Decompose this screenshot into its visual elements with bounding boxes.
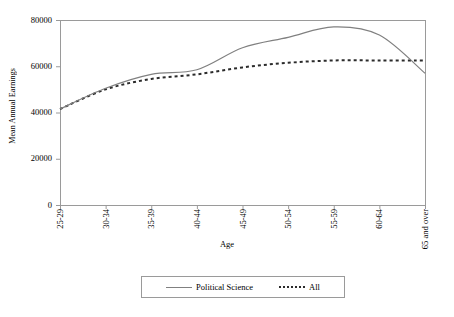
x-tick-label: 45-49 (239, 209, 248, 229)
x-tick-label: 50-54 (284, 209, 293, 229)
legend-label-all: All (309, 282, 320, 292)
y-axis-ticks (56, 21, 60, 206)
y-tick-label: 20000 (12, 154, 52, 163)
x-tick-label: 40-44 (193, 209, 202, 229)
x-tick-label: 35-39 (147, 209, 156, 229)
y-tick-label: 0 (12, 201, 52, 210)
plot-frame (61, 21, 426, 206)
legend-entry-political-science: Political Science (166, 282, 253, 292)
y-tick-label: 80000 (12, 16, 52, 25)
x-tick-label: 30-34 (102, 209, 111, 229)
plot-area (0, 0, 454, 317)
legend-swatch-solid-line-icon (166, 287, 192, 288)
chart-figure: Mean Annual Earnings 0200004000060000800… (0, 0, 454, 317)
x-tick-label: 25-29 (56, 209, 65, 229)
legend-swatch-dashed-line-icon (279, 286, 305, 288)
legend-label-political-science: Political Science (196, 282, 253, 292)
y-tick-label: 40000 (12, 108, 52, 117)
chart-legend: Political Science All (141, 276, 345, 298)
x-axis-label: Age (0, 239, 454, 249)
x-tick-label: 55-59 (330, 209, 339, 229)
legend-entry-all: All (279, 282, 320, 292)
x-tick-label: 60-64 (375, 209, 384, 229)
y-tick-label: 60000 (12, 62, 52, 71)
y-axis-label: Mean Annual Earnings (6, 68, 20, 144)
